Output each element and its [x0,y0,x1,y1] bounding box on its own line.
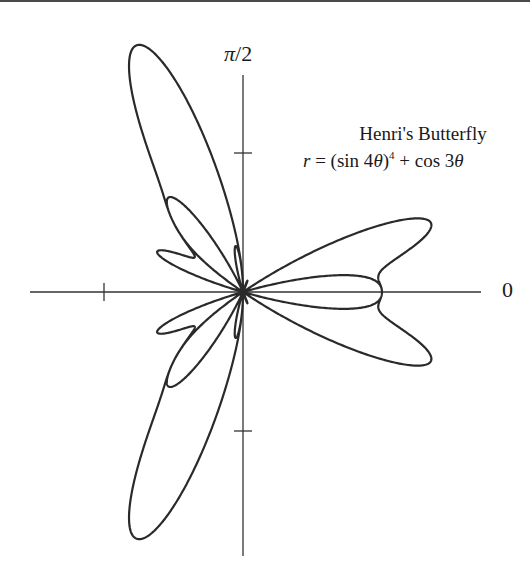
chart-title: Henri's Butterfly [343,123,503,145]
eq-theta-2: θ [454,150,463,171]
eq-cos: + cos 3 [395,150,455,171]
over-two-text: /2 [235,41,252,66]
angle-label-pi-over-2: π/2 [224,41,252,67]
pi-symbol: π [224,41,235,66]
angle-label-zero: 0 [502,277,513,303]
chart-equation: r = (sin 4θ)4 + cos 3θ [303,149,464,172]
eq-theta: θ [373,150,382,171]
eq-sin: = (sin 4 [310,150,373,171]
polar-plot [0,0,530,576]
